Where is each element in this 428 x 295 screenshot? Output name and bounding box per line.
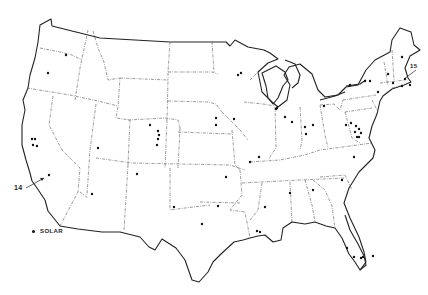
solar-site-dot	[47, 72, 49, 74]
great-lakes	[262, 60, 366, 104]
solar-site-dot	[358, 128, 360, 130]
solar-site-dot	[264, 206, 266, 208]
solar-site-dot	[353, 256, 355, 258]
solar-site-dot	[36, 145, 38, 147]
solar-site-dot	[65, 54, 67, 56]
solar-site-dot	[149, 124, 151, 126]
solar-site-dot	[233, 118, 235, 120]
solar-site-dot	[304, 126, 306, 128]
solar-site-dot	[275, 108, 277, 110]
legend-label-solar: SOLAR	[40, 228, 63, 234]
solar-site-dot	[356, 136, 358, 138]
us-solar-sites-map	[0, 0, 428, 295]
solar-site-dot	[136, 173, 138, 175]
solar-site-dot	[409, 84, 411, 86]
solar-site-dot	[215, 124, 217, 126]
florida-coast	[345, 215, 366, 270]
solar-site-dot	[157, 138, 159, 140]
solar-site-dot	[215, 117, 217, 119]
solar-site-dot	[355, 125, 357, 127]
solar-site-dot	[401, 85, 403, 87]
solar-site-dot	[291, 121, 293, 123]
solar-site-dot	[48, 174, 50, 176]
solar-site-dot	[240, 72, 242, 74]
solar-site-dot	[312, 124, 314, 126]
solar-site-dot	[32, 144, 34, 146]
solar-site-dot	[392, 82, 394, 84]
solar-site-dot	[91, 193, 93, 195]
callout-label-15: 15	[410, 63, 417, 69]
solar-site-dot	[323, 105, 325, 107]
solar-site-dot	[31, 138, 33, 140]
us-outline	[22, 19, 420, 282]
solar-site-dot	[346, 247, 348, 249]
solar-site-dot	[401, 56, 403, 58]
solar-site-dot	[217, 205, 219, 207]
solar-site-dot	[97, 147, 99, 149]
solar-site-dot	[225, 176, 227, 178]
legend-dot-icon	[32, 230, 35, 233]
solar-site-dot	[237, 74, 239, 76]
solar-site-dot	[372, 255, 374, 257]
solar-site-dot	[173, 206, 175, 208]
callout-label-14: 14	[14, 184, 22, 191]
solar-site-dot	[289, 192, 291, 194]
solar-site-dot	[312, 189, 314, 191]
solar-site-dot	[156, 144, 158, 146]
solar-site-dot	[258, 156, 260, 158]
solar-site-dot	[201, 223, 203, 225]
solar-site-dot	[354, 131, 356, 133]
solar-site-dot	[387, 73, 389, 75]
solar-site-dot	[284, 116, 286, 118]
solar-site-dot	[349, 84, 351, 86]
solar-site-dot	[350, 122, 352, 124]
solar-site-dot	[34, 138, 36, 140]
solar-site-dot	[158, 134, 160, 136]
solar-site-dot	[345, 124, 347, 126]
solar-site-dot	[341, 179, 343, 181]
solar-site-dot	[360, 257, 362, 259]
solar-site-dot	[353, 156, 355, 158]
solar-site-dot	[369, 80, 371, 82]
state-borders	[27, 30, 405, 238]
legend: SOLAR	[32, 228, 63, 234]
solar-site-dot	[364, 80, 366, 82]
solar-site-dot	[259, 231, 261, 233]
solar-site-dot	[305, 133, 307, 135]
solar-site-dot	[256, 230, 258, 232]
solar-site-dot	[249, 161, 251, 163]
solar-site-dot	[360, 132, 362, 134]
solar-site-dot	[377, 91, 379, 93]
solar-site-dot	[157, 130, 159, 132]
